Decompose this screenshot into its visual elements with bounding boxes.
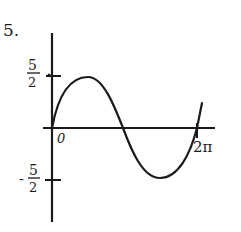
y-top-denominator: 2	[28, 75, 36, 90]
y-bottom-sign: -	[19, 171, 24, 187]
sine-graph: 5 2 - 5 2 0 2π	[0, 0, 241, 232]
y-tick-dot	[48, 74, 51, 77]
y-top-numerator: 5	[28, 57, 37, 73]
y-bottom-numerator: 5	[29, 162, 38, 178]
x-end-label: 2π	[193, 138, 213, 156]
origin-label: 0	[57, 131, 65, 146]
y-bottom-denominator: 2	[29, 180, 37, 195]
